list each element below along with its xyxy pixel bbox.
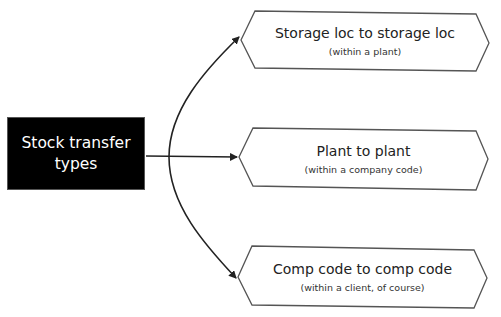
- target-title: Plant to plant: [317, 142, 411, 161]
- target-comp-code: Comp code to comp code (within a client,…: [238, 246, 487, 308]
- stock-transfer-types-box: Stock transfer types: [7, 117, 145, 190]
- target-plant: Plant to plant (within a company code): [239, 128, 488, 190]
- source-label-line1: Stock transfer: [21, 133, 130, 154]
- arc-arrow-bottom: [169, 157, 236, 278]
- arrow-to-plant: [146, 156, 237, 157]
- target-subtitle: (within a plant): [329, 45, 401, 59]
- arc-arrow-top: [169, 37, 239, 157]
- target-storage-loc: Storage loc to storage loc (within a pla…: [241, 11, 489, 71]
- source-label-line2: types: [55, 154, 98, 175]
- target-subtitle: (within a company code): [305, 163, 423, 177]
- target-title: Storage loc to storage loc: [275, 24, 455, 43]
- target-subtitle: (within a client, of course): [300, 281, 424, 295]
- target-title: Comp code to comp code: [273, 260, 452, 279]
